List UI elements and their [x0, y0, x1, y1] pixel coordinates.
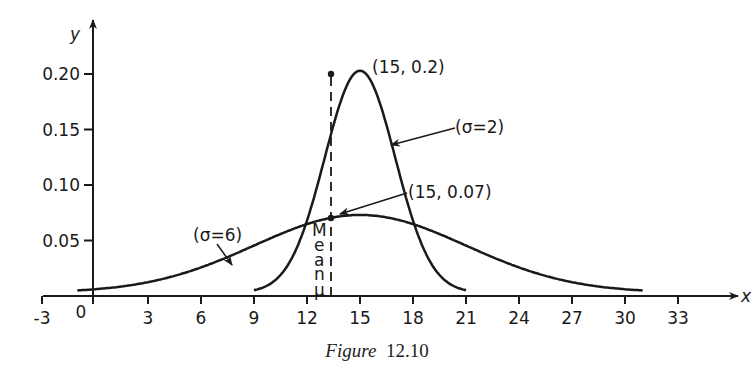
x-tick-label: 27 — [561, 308, 583, 328]
caption-number: 12.10 — [386, 340, 429, 361]
peak-dot-high — [328, 71, 334, 77]
x-tick-label: 30 — [614, 308, 636, 328]
caption-prefix: Figure — [325, 340, 376, 361]
x-tick-label: 18 — [402, 308, 424, 328]
curve-sigma-2 — [254, 71, 466, 291]
mean-mu-label: M e a n μ — [312, 220, 327, 300]
x-tick-label: 12 — [296, 308, 318, 328]
y-tick-label: 0.10 — [42, 175, 80, 195]
y-tick-label: 0.15 — [42, 120, 80, 140]
x-tick-label: 9 — [249, 308, 260, 328]
y-ticks: 0.050.100.150.20 — [42, 64, 93, 251]
x-tick-label: 33 — [667, 308, 689, 328]
x-ticks: -303691215182124273033 — [34, 296, 689, 328]
x-tick-label: 15 — [349, 308, 371, 328]
x-tick-label: 24 — [508, 308, 530, 328]
x-tick-label: 0 — [76, 302, 87, 322]
sigma2-label: (σ=2) — [455, 117, 504, 137]
peak-high-label: (15, 0.2) — [372, 57, 445, 77]
peak-low-arrow — [340, 193, 407, 214]
y-tick-label: 0.05 — [42, 231, 80, 251]
sigma2-arrow — [391, 128, 455, 145]
sigma6-label: (σ=6) — [193, 225, 242, 245]
x-tick-label: 21 — [455, 308, 477, 328]
x-axis-label: x — [740, 286, 752, 306]
normal-curves-chart: y x -303691215182124273033 0.050.100.150… — [0, 0, 754, 386]
x-tick-label: -3 — [34, 308, 51, 328]
figure-caption: Figure 12.10 — [0, 340, 754, 362]
peak-low-label: (15, 0.07) — [408, 182, 492, 202]
curve-sigma-6 — [77, 215, 642, 291]
sigma6-arrow — [217, 244, 232, 265]
y-tick-label: 0.20 — [42, 64, 80, 84]
y-axis-label: y — [69, 24, 81, 44]
mean-letter: μ — [314, 280, 325, 300]
x-tick-label: 6 — [196, 308, 207, 328]
peak-dot-low — [328, 215, 334, 221]
x-tick-label: 3 — [143, 308, 154, 328]
